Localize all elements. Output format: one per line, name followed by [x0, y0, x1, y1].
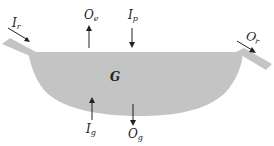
groundwater-inflow-label: Ig — [86, 123, 96, 137]
evaporation-label: Oe — [84, 9, 99, 23]
surface-outflow-label: Or — [245, 30, 261, 47]
storage-label: G — [110, 71, 120, 83]
precipitation-label: Ip — [128, 9, 138, 23]
precipitation-arrow — [129, 28, 135, 48]
surface-inflow-label: Ir — [12, 17, 21, 31]
evaporation-arrow — [86, 25, 92, 48]
lake-basin — [28, 52, 242, 116]
groundwater-outflow-label: Og — [128, 128, 143, 142]
